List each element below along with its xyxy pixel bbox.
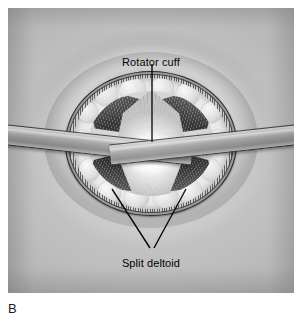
figure-page: Rotator cuff Split deltoid B <box>0 0 303 329</box>
figure-caption-letter: B <box>8 302 17 316</box>
illustration-panel: Rotator cuff Split deltoid <box>8 8 294 293</box>
panel-shading-top <box>8 8 294 28</box>
panel-shading-bottom <box>8 267 294 293</box>
label-rotator-cuff: Rotator cuff <box>8 56 294 68</box>
label-split-deltoid: Split deltoid <box>8 257 294 269</box>
